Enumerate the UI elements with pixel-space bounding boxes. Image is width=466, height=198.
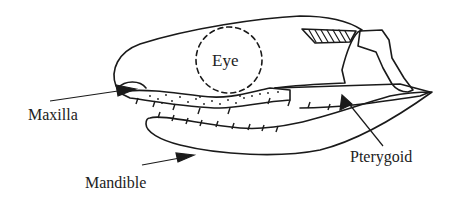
quadrate-bone xyxy=(358,30,413,92)
mandible-arrowhead xyxy=(176,153,194,162)
maxilla-pointer xyxy=(50,91,118,101)
mandible-pointer xyxy=(142,158,180,165)
maxilla-bone xyxy=(118,88,290,108)
skull-diagram xyxy=(0,0,466,198)
label-mandible: Mandible xyxy=(85,175,146,191)
label-maxilla: Maxilla xyxy=(28,107,78,123)
label-pterygoid: Pterygoid xyxy=(350,149,412,165)
maxilla-arrowhead xyxy=(116,85,136,96)
upper-teeth xyxy=(136,98,330,114)
label-eye: Eye xyxy=(212,52,238,69)
